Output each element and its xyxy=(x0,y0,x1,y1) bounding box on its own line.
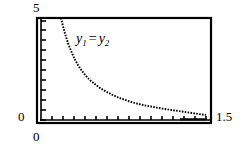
annotation-y2-symbol: y xyxy=(99,31,105,46)
plot-frame xyxy=(37,18,211,123)
annotation-y2-subscript: 2 xyxy=(105,38,110,48)
y-axis-max-label: 5 xyxy=(33,1,40,14)
graph-figure: 5 0 0 1.5 y1=y2 xyxy=(0,0,242,152)
y-axis-min-label: 0 xyxy=(18,110,25,123)
annotation-equals: = xyxy=(87,31,99,46)
annotation-y1-subscript: 1 xyxy=(82,38,87,48)
x-axis-max-label: 1.5 xyxy=(216,110,232,123)
x-axis-min-label: 0 xyxy=(33,130,40,143)
curve-annotation: y1=y2 xyxy=(76,31,109,48)
